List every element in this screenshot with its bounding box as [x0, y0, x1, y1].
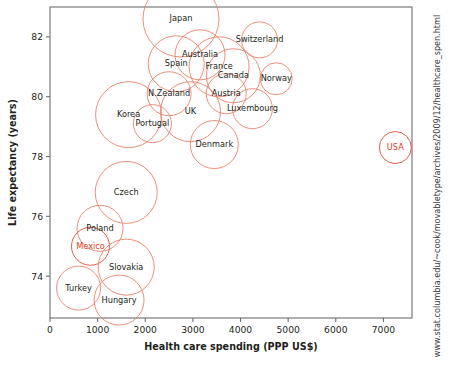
plot-frame	[50, 7, 412, 318]
x-tick-label-1000: 1000	[86, 324, 110, 335]
y-tick-label-78: 78	[31, 151, 43, 162]
point-label-hungary: Hungary	[102, 295, 137, 305]
point-label-switzerland: Switzerland	[236, 34, 284, 44]
y-axis-title: Life expectancy (years)	[7, 99, 18, 226]
point-label-czech: Czech	[114, 187, 139, 197]
x-tick-label-2000: 2000	[134, 324, 158, 335]
chart-figure: 010002000300040005000600070007476788082H…	[0, 0, 454, 373]
scatter-plot: 010002000300040005000600070007476788082H…	[0, 0, 454, 373]
y-tick-label-76: 76	[31, 211, 43, 222]
point-label-slovakia: Slovakia	[109, 262, 143, 272]
x-axis-title: Health care spending (PPP US$)	[144, 341, 317, 352]
point-label-nzealand: N.Zealand	[148, 88, 190, 98]
x-tick-label-7000: 7000	[372, 324, 396, 335]
x-tick-label-6000: 6000	[324, 324, 348, 335]
point-label-canada: Canada	[218, 70, 249, 80]
y-tick-label-82: 82	[31, 31, 43, 42]
source-url: www.stat.columbia.edu/~cook/movabletype/…	[432, 15, 442, 357]
point-label-austria: Austria	[212, 88, 241, 98]
x-tick-label-3000: 3000	[181, 324, 205, 335]
point-label-portugal: Portugal	[135, 118, 169, 128]
point-label-denmark: Denmark	[196, 139, 234, 149]
x-tick-label-4000: 4000	[229, 324, 253, 335]
point-label-luxembourg: Luxembourg	[227, 103, 278, 113]
point-label-poland: Poland	[86, 223, 113, 233]
x-tick-label-0: 0	[47, 324, 53, 335]
point-label-usa: USA	[387, 142, 404, 152]
point-label-norway: Norway	[261, 73, 292, 83]
y-tick-label-80: 80	[31, 91, 43, 102]
point-label-turkey: Turkey	[64, 283, 92, 293]
x-tick-label-5000: 5000	[276, 324, 300, 335]
point-label-uk: UK	[185, 106, 197, 116]
y-tick-label-74: 74	[31, 271, 43, 282]
point-label-japan: Japan	[169, 13, 193, 23]
point-label-mexico: Mexico	[76, 241, 105, 251]
point-label-spain: Spain	[165, 58, 188, 68]
